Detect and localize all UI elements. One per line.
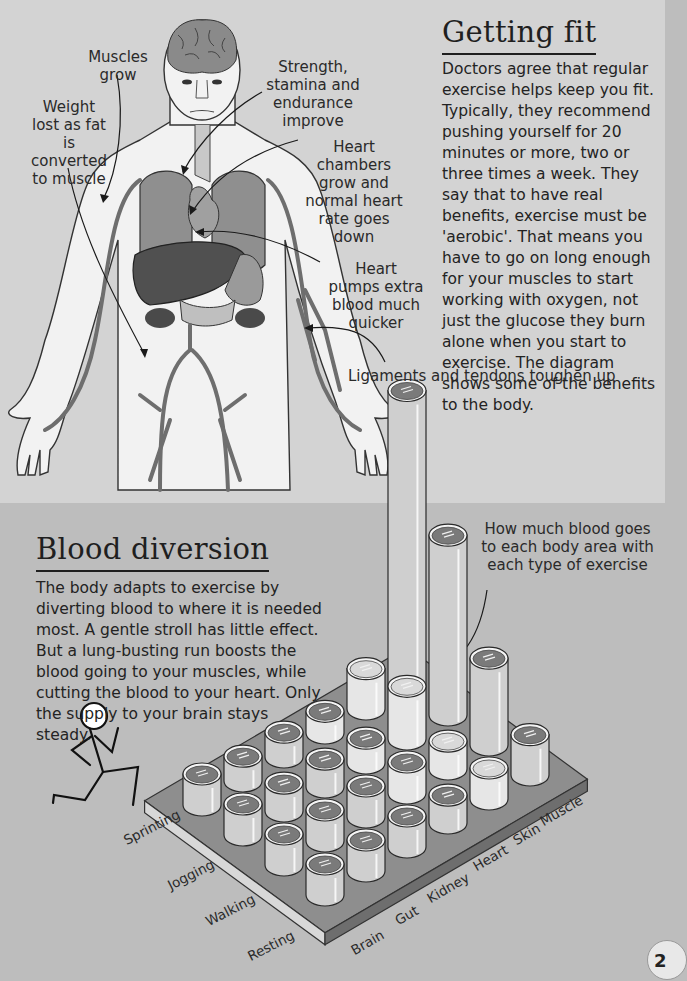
brain-icon	[168, 20, 237, 73]
annotation-strength: Strength, stamina and endurance improve	[252, 58, 374, 130]
blood-diversion-text: The body adapts to exercise by diverting…	[36, 578, 326, 746]
getting-fit-section: Getting fit Doctors agree that regular e…	[442, 15, 662, 416]
blood-diversion-section: Blood diversion The body adapts to exerc…	[36, 532, 326, 746]
annotation-muscles-grow: Muscles grow	[70, 48, 166, 84]
annotation-heart-pumps: Heart pumps extra blood much quicker	[328, 260, 424, 332]
cylinder-walking-muscle-body	[470, 658, 508, 756]
annotation-weight-lost: Weight lost as fat is converted to muscl…	[28, 98, 110, 188]
getting-fit-text: Doctors agree that regular exercise help…	[442, 59, 662, 416]
chart-callout: How much blood goes to each body area wi…	[480, 520, 655, 574]
blood-diversion-title: Blood diversion	[36, 532, 269, 572]
cylinder-sprinting-muscle-body	[388, 391, 426, 697]
cylinder-jogging-muscle-body	[429, 535, 467, 726]
page-number: 2	[647, 940, 687, 980]
annotation-heart-chambers: Heart chambers grow and normal heart rat…	[300, 138, 408, 246]
getting-fit-title: Getting fit	[442, 15, 596, 55]
